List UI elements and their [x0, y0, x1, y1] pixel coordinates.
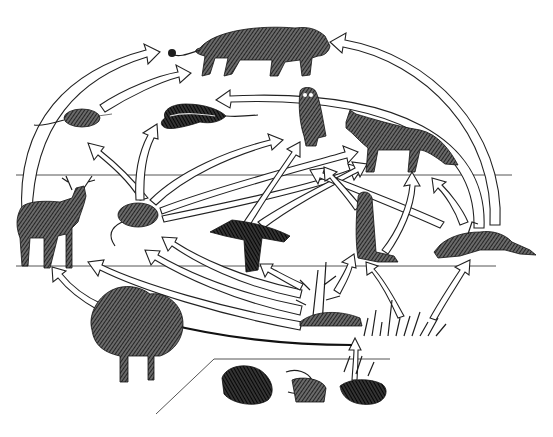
trees-illustration [91, 287, 183, 382]
food-web-diagram [0, 0, 553, 437]
arrow-grass-to-rabbit [430, 260, 470, 320]
arrow-grass-to-prairiedog [366, 262, 404, 318]
mouse-illustration [111, 203, 158, 246]
arrow-mouse-to-snake [136, 124, 158, 200]
arrow-rabbit-to-fox [432, 178, 468, 225]
mountain-lion-illustration [168, 27, 330, 76]
snake-illustration [161, 104, 258, 129]
corn-plants-illustration [296, 262, 362, 326]
arrow-trees-to-deer [52, 267, 102, 310]
arrow-corn-to-prairiedog [334, 254, 356, 294]
crow-illustration [210, 220, 290, 272]
owl-illustration [299, 88, 326, 147]
rabbit-illustration [434, 222, 536, 258]
decomposers-illustration [222, 356, 386, 404]
